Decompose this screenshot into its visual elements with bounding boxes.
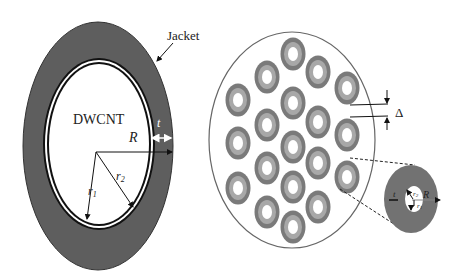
fiber [226,127,251,160]
fiber [255,196,280,229]
inset-R-label: R [422,189,429,200]
fiber-layer [342,81,352,95]
fiber [255,61,280,94]
fiber-layer [233,136,243,150]
fiber [226,84,251,117]
fiber-layer [288,96,298,110]
fiber [281,171,306,204]
fiber [226,172,251,205]
R-label: R [128,130,138,145]
fiber-layer [313,200,323,214]
fiber-detail-inset: t R r2 r1 [384,165,440,233]
fiber-layer [262,118,272,132]
fiber-layer [313,65,323,79]
fiber-layer [342,128,352,142]
fiber [281,87,306,120]
fiber [255,109,280,142]
delta-label: Δ [395,105,403,120]
fiber [281,211,306,244]
fiber [255,152,280,185]
fiber-layer [313,115,323,129]
fiber [335,161,360,194]
fiber-layer [313,156,323,170]
fiber [306,106,331,139]
fiber-layer [288,220,298,234]
dwcnt-label: DWCNT [73,112,125,127]
fiber-layer [288,180,298,194]
fiber-layer [262,161,272,175]
fiber-layer [342,170,352,184]
diagram-canvas: DWCNT Jacket R t r1 r2 Δ t R r2 r1 [0,0,461,280]
fiber-layer [262,70,272,84]
jacket-label: Jacket [167,28,200,43]
fiber [306,147,331,180]
fiber-layer [288,140,298,154]
fiber [335,72,360,105]
jacket-pointer-arrow [157,43,173,61]
fiber [335,119,360,152]
fiber [306,56,331,89]
fiber-layer [233,93,243,107]
dwcnt-cross-section: DWCNT Jacket R t r1 r2 [23,22,200,270]
fiber [281,38,306,71]
fiber-layer [262,205,272,219]
fiber-bundle: Δ t R r2 r1 [209,32,440,248]
fiber-layer [233,181,243,195]
fiber-layer [288,47,298,61]
fiber [306,191,331,224]
fiber [281,131,306,164]
